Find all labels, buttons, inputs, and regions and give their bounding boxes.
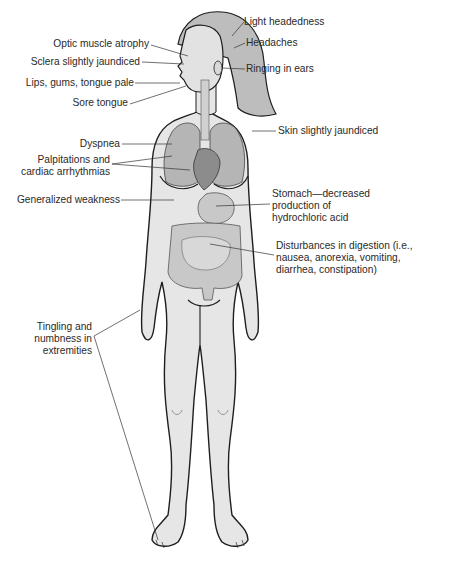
label-skin-jaundiced: Skin slightly jaundiced — [278, 125, 378, 137]
face — [178, 25, 223, 92]
label-headaches: Headaches — [246, 37, 298, 49]
label-generalized-weakness: Generalized weakness — [17, 194, 120, 206]
label-digestion: Disturbances in digestion (i.e., nausea,… — [276, 240, 412, 276]
label-light-headedness: Light headedness — [244, 16, 324, 28]
label-lips-gums-tongue: Lips, gums, tongue pale — [26, 77, 134, 89]
label-optic-muscle-atrophy: Optic muscle atrophy — [53, 38, 149, 50]
trachea — [201, 80, 209, 140]
label-palpitations: Palpitations and cardiac arrhythmias — [21, 154, 110, 178]
ear — [214, 61, 222, 75]
label-sclera-jaundiced: Sclera slightly jaundiced — [31, 56, 140, 68]
stomach — [198, 193, 234, 224]
label-sore-tongue: Sore tongue — [72, 97, 128, 109]
label-dyspnea: Dyspnea — [80, 138, 120, 150]
label-ringing-in-ears: Ringing in ears — [246, 63, 314, 75]
label-tingling: Tingling and numbness in extremities — [34, 321, 92, 357]
label-stomach: Stomach—decreased production of hydrochl… — [272, 188, 370, 224]
